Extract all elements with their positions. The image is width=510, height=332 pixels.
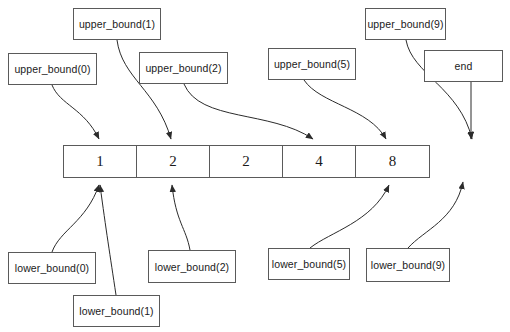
edge-upper-bound-2 [184, 84, 313, 139]
node-label: lower_bound(0) [15, 262, 89, 274]
array-cell[interactable]: 4 [283, 146, 356, 177]
edge-upper-bound-0 [52, 85, 99, 139]
sorted-array: 1 2 2 4 8 [63, 145, 430, 178]
array-cell-value: 2 [242, 153, 250, 170]
node-lower-bound-5[interactable]: lower_bound(5) [268, 248, 350, 280]
node-label: lower_bound(2) [155, 261, 229, 273]
edge-lower-bound-0 [52, 185, 99, 252]
node-label: upper_bound(0) [14, 63, 90, 75]
edge-lower-bound-5 [310, 185, 389, 248]
array-cell-value: 8 [389, 153, 397, 170]
node-lower-bound-1[interactable]: lower_bound(1) [73, 295, 160, 327]
array-cell-value: 4 [315, 153, 323, 170]
node-lower-bound-2[interactable]: lower_bound(2) [148, 250, 236, 283]
node-upper-bound-0[interactable]: upper_bound(0) [8, 53, 97, 85]
edge-lower-bound-2 [172, 185, 190, 250]
node-upper-bound-9[interactable]: upper_bound(9) [365, 8, 446, 40]
node-label: lower_bound(9) [371, 259, 445, 271]
node-label: upper_bound(5) [274, 58, 350, 70]
node-label: end [455, 60, 473, 72]
node-upper-bound-5[interactable]: upper_bound(5) [268, 48, 356, 80]
edge-lower-bound-1 [100, 185, 116, 295]
node-lower-bound-9[interactable]: lower_bound(9) [366, 248, 450, 282]
array-cell[interactable]: 8 [356, 146, 429, 177]
node-label: upper_bound(9) [367, 18, 443, 30]
array-cell-value: 1 [96, 153, 104, 170]
node-upper-bound-2[interactable]: upper_bound(2) [139, 52, 228, 84]
array-cell[interactable]: 2 [137, 146, 210, 177]
array-cell[interactable]: 2 [210, 146, 283, 177]
node-label: upper_bound(2) [145, 62, 221, 74]
node-lower-bound-0[interactable]: lower_bound(0) [8, 252, 96, 284]
array-cell-value: 2 [169, 153, 177, 170]
array-cell[interactable]: 1 [64, 146, 137, 177]
edge-upper-bound-5 [304, 80, 386, 139]
diagram-canvas: upper_bound(0) upper_bound(1) upper_boun… [0, 0, 510, 332]
node-label: lower_bound(1) [79, 305, 153, 317]
edge-lower-bound-9 [408, 182, 463, 248]
node-upper-bound-1[interactable]: upper_bound(1) [73, 8, 161, 40]
node-label: upper_bound(1) [79, 18, 155, 30]
node-label: lower_bound(5) [272, 258, 346, 270]
node-end[interactable]: end [424, 50, 503, 82]
